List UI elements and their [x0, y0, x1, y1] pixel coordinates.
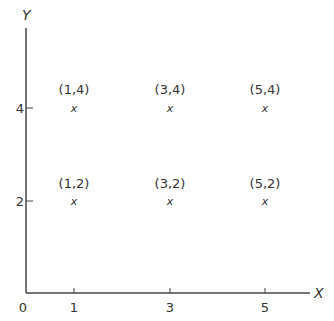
- x-marker-icon: x: [166, 102, 174, 115]
- y-tick-4: 4: [16, 101, 33, 116]
- point-5-2: (5,2) x: [250, 176, 281, 208]
- x-axis-label: X: [313, 285, 324, 301]
- y-tick-2: 2: [16, 194, 33, 209]
- x-tick-5: 5: [261, 288, 269, 315]
- point-label: (5,2): [250, 176, 281, 191]
- y-tick-label: 4: [16, 101, 24, 116]
- x-marker-icon: x: [166, 195, 174, 208]
- point-label: (1,4): [59, 82, 90, 97]
- point-label: (3,2): [155, 176, 186, 191]
- x-tick-label: 1: [70, 300, 78, 315]
- point-label: (3,4): [155, 82, 186, 97]
- coordinate-diagram: Y X 0 1 3 5 4 2 (1,4) x (3,4) x (5,4) x …: [0, 0, 334, 321]
- point-3-2: (3,2) x: [155, 176, 186, 208]
- x-marker-icon: x: [70, 195, 78, 208]
- point-5-4: (5,4) x: [250, 82, 281, 115]
- point-3-4: (3,4) x: [155, 82, 186, 115]
- y-tick-label: 2: [16, 194, 24, 209]
- x-tick-1: 1: [70, 288, 78, 315]
- point-1-4: (1,4) x: [59, 82, 90, 115]
- x-tick-3: 3: [166, 288, 174, 315]
- x-marker-icon: x: [261, 195, 269, 208]
- point-label: (1,2): [59, 176, 90, 191]
- x-marker-icon: x: [70, 102, 78, 115]
- point-1-2: (1,2) x: [59, 176, 90, 208]
- x-marker-icon: x: [261, 102, 269, 115]
- x-tick-label: 3: [166, 300, 174, 315]
- y-axis-label: Y: [22, 7, 32, 23]
- point-label: (5,4): [250, 82, 281, 97]
- origin-label: 0: [19, 300, 27, 315]
- x-tick-label: 5: [261, 300, 269, 315]
